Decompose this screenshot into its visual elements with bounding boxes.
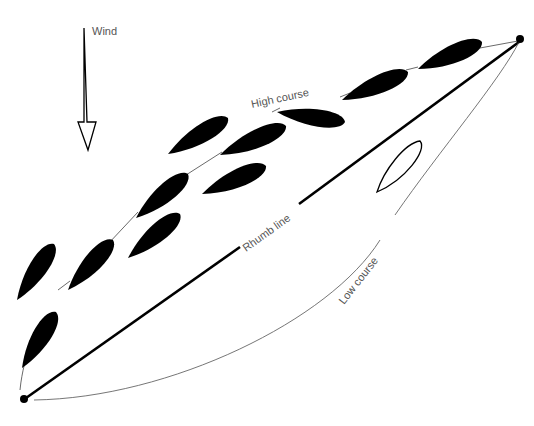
start-mark [20, 395, 28, 403]
boat-high-course-5 [136, 173, 189, 218]
boat-high-course-4 [128, 213, 181, 258]
boat-low-course [377, 141, 422, 192]
boat-high-course-6 [168, 116, 228, 154]
high-course-label: High course [250, 86, 310, 110]
boats [17, 39, 482, 368]
boat-high-course-1 [22, 312, 58, 368]
boat-high-course-10 [342, 69, 408, 100]
boat-high-course-7 [202, 163, 266, 194]
boat-high-course-8 [220, 123, 286, 155]
boat-high-course-3 [68, 239, 114, 290]
rhumb-line-label: Rhumb line [240, 212, 292, 254]
low-course-label: Low course [336, 255, 380, 307]
boat-high-course-11 [418, 39, 482, 69]
boat-high-course-2 [17, 244, 56, 300]
boat-high-course-9 [277, 109, 345, 128]
finish-mark [516, 35, 524, 43]
sailing-course-diagram: Wind Rhumb line Low course High course [0, 0, 534, 426]
wind-label: Wind [92, 25, 117, 37]
wind-arrow-icon [78, 28, 96, 150]
